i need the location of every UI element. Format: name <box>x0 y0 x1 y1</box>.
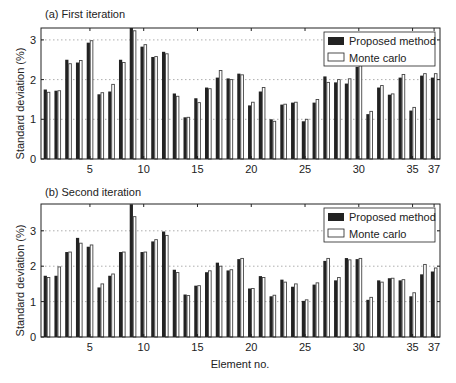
bar-monte-carlo <box>187 117 190 159</box>
bar-proposed <box>216 78 219 159</box>
bar-monte-carlo <box>381 86 384 159</box>
bar-monte-carlo <box>241 258 244 337</box>
bar-proposed <box>87 247 90 337</box>
bar-monte-carlo <box>262 278 265 337</box>
bar-proposed <box>184 295 187 337</box>
bar-proposed <box>140 252 143 337</box>
bar-proposed <box>345 84 348 159</box>
bar-monte-carlo <box>90 245 93 337</box>
bar-monte-carlo <box>112 274 115 337</box>
bar-proposed <box>216 263 219 337</box>
bar-monte-carlo <box>295 284 298 337</box>
legend: Proposed methodMonte carlo <box>324 208 436 242</box>
bar-monte-carlo <box>262 88 265 159</box>
y-tick-label: 3 <box>30 225 36 237</box>
bar-monte-carlo <box>381 282 384 337</box>
bar-proposed <box>205 272 208 337</box>
bar-proposed <box>162 52 165 159</box>
bar-monte-carlo <box>219 70 222 159</box>
bar-proposed <box>76 63 79 159</box>
bar-monte-carlo <box>58 91 61 159</box>
bar-monte-carlo <box>187 296 190 337</box>
bar-monte-carlo <box>424 264 427 337</box>
bar-proposed <box>151 57 154 159</box>
y-tick-label: 0 <box>30 331 36 343</box>
bar-monte-carlo <box>348 79 351 159</box>
bar-monte-carlo <box>338 80 341 159</box>
x-tick-label: 15 <box>191 163 203 175</box>
bar-monte-carlo <box>122 252 125 337</box>
bar-proposed <box>227 270 230 337</box>
bar-monte-carlo <box>155 240 158 337</box>
bar-monte-carlo <box>230 270 233 337</box>
bar-monte-carlo <box>133 31 136 159</box>
bar-monte-carlo <box>241 75 244 159</box>
bar-monte-carlo <box>155 57 158 159</box>
x-tick-label: 20 <box>245 163 257 175</box>
bar-monte-carlo <box>305 300 308 337</box>
bar-proposed <box>356 259 359 337</box>
bar-proposed <box>313 103 316 159</box>
y-tick-label: 3 <box>30 34 36 46</box>
y-tick-label: 0 <box>30 153 36 165</box>
bar-proposed <box>420 274 423 337</box>
bar-monte-carlo <box>79 243 82 337</box>
bar-monte-carlo <box>295 102 298 159</box>
bar-proposed <box>237 74 240 159</box>
bar-proposed <box>291 287 294 337</box>
bar-proposed <box>130 204 133 337</box>
bar-monte-carlo <box>69 252 72 337</box>
bar-proposed <box>162 232 165 337</box>
bar-monte-carlo <box>348 260 351 337</box>
bar-proposed <box>280 280 283 337</box>
bar-proposed <box>44 90 47 159</box>
bar-monte-carlo <box>47 278 50 337</box>
bar-monte-carlo <box>133 217 136 337</box>
x-tick-label: 37 <box>428 163 440 175</box>
bar-proposed <box>334 82 337 159</box>
bar-monte-carlo <box>327 82 330 159</box>
bar-proposed <box>420 76 423 159</box>
bar-proposed <box>184 117 187 159</box>
chart-figure: 0123510152025303537(a) First iterationSt… <box>0 0 456 383</box>
x-tick-label: 37 <box>428 341 440 353</box>
x-tick-label: 35 <box>406 341 418 353</box>
bar-monte-carlo <box>316 99 319 159</box>
x-axis-label: Element no. <box>211 358 270 370</box>
bar-proposed <box>399 78 402 159</box>
bar-monte-carlo <box>101 284 104 337</box>
panel-second-iteration: 0123510152025303537(b) Second iterationS… <box>14 186 440 370</box>
bar-proposed <box>130 28 133 159</box>
bar-monte-carlo <box>413 107 416 159</box>
bar-proposed <box>237 259 240 337</box>
bar-proposed <box>270 119 273 159</box>
bar-monte-carlo <box>198 103 201 159</box>
bar-proposed <box>87 43 90 159</box>
bar-monte-carlo <box>69 64 72 159</box>
y-tick-label: 1 <box>30 296 36 308</box>
bar-proposed <box>345 258 348 337</box>
bar-proposed <box>44 276 47 337</box>
bar-monte-carlo <box>391 94 394 159</box>
bar-proposed <box>302 301 305 337</box>
bar-proposed <box>399 280 402 337</box>
bar-monte-carlo <box>402 280 405 337</box>
bar-proposed <box>323 261 326 337</box>
bar-monte-carlo <box>79 61 82 159</box>
bar-proposed <box>248 105 251 159</box>
bar-proposed <box>431 78 434 159</box>
bar-proposed <box>205 88 208 159</box>
bar-proposed <box>108 276 111 337</box>
bar-monte-carlo <box>219 266 222 337</box>
legend-swatch-proposed <box>328 37 344 45</box>
bar-proposed <box>54 276 57 337</box>
x-tick-label: 10 <box>138 163 150 175</box>
legend-label-proposed: Proposed method <box>349 35 436 47</box>
bar-monte-carlo <box>370 297 373 337</box>
bar-monte-carlo <box>316 283 319 337</box>
bar-proposed <box>65 60 68 159</box>
bar-monte-carlo <box>166 54 169 159</box>
bar-monte-carlo <box>198 286 201 337</box>
bar-monte-carlo <box>176 96 179 159</box>
bar-monte-carlo <box>176 273 179 337</box>
